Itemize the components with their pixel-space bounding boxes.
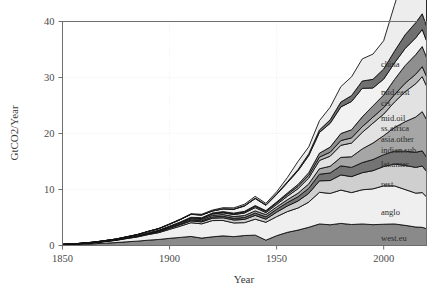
- series-label-indian.sub: indian.sub: [381, 145, 416, 155]
- x-axis-title: Year: [234, 273, 255, 285]
- y-axis-title: GtCO2/Year: [8, 105, 20, 160]
- stacked-area-chart: 010203040 1850190019502000 GtCO2/Year Ye…: [0, 0, 446, 292]
- y-tick-label: 20: [44, 128, 55, 139]
- series-label-ss.africa: ss.africa: [381, 123, 409, 133]
- series-label-mid.oil: mid.oil: [381, 113, 406, 123]
- y-tick-label: 10: [44, 184, 55, 195]
- series-label-lat.amer: lat.amer: [381, 159, 409, 169]
- x-tick-label: 2000: [373, 253, 394, 264]
- series-label-china: china: [381, 59, 400, 69]
- y-tick-label: 0: [49, 240, 54, 251]
- series-label-anglo: anglo: [381, 207, 400, 217]
- series-label-mid.east: mid.east: [381, 87, 410, 97]
- series-label-cis: cis: [381, 98, 390, 108]
- series-label-rest: rest: [381, 179, 394, 189]
- y-tick-label: 30: [44, 72, 55, 83]
- x-tick-label: 1850: [52, 253, 73, 264]
- series-label-west.eu: west.eu: [381, 233, 407, 243]
- series-label-asia.other: asia.other: [381, 134, 414, 144]
- x-tick-label: 1950: [266, 253, 287, 264]
- figure-container: 010203040 1850190019502000 GtCO2/Year Ye…: [0, 0, 446, 292]
- x-tick-label: 1900: [159, 253, 180, 264]
- y-tick-label: 40: [44, 16, 55, 27]
